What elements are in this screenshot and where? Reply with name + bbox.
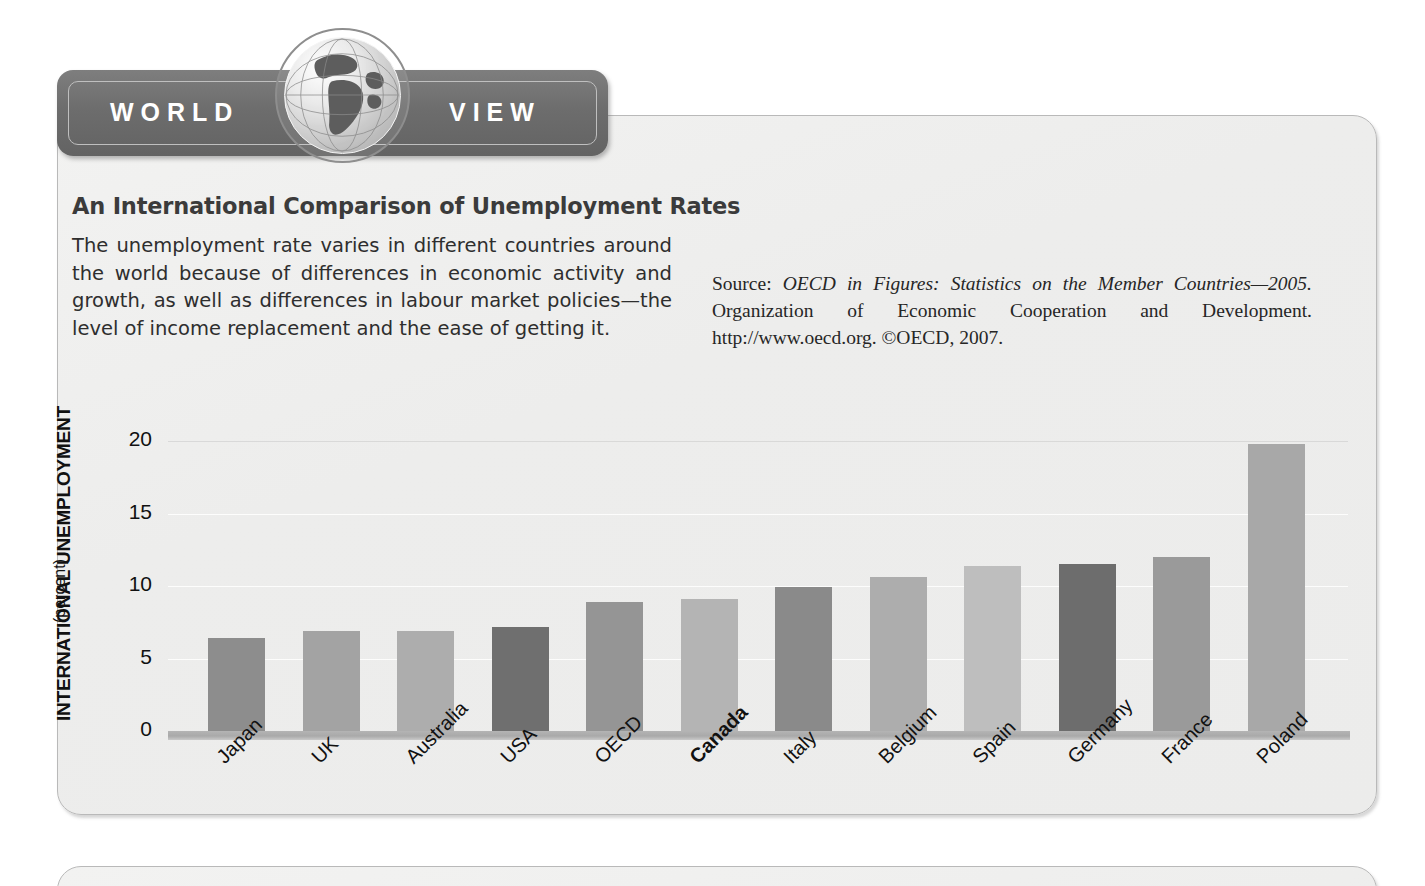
source-title: OECD in Figures: Statistics on the Membe… [783,273,1312,294]
banner-word-world: WORLD [110,98,239,127]
source-rest: Organization of Economic Cooperation and… [712,300,1312,348]
page-root: WORLD VIEW An In [0,0,1425,886]
banner-word-view: VIEW [449,98,541,127]
globe-outer-ring [275,28,410,163]
globe-icon [275,28,410,163]
world-view-panel [57,115,1377,815]
source-citation: Source: OECD in Figures: Statistics on t… [712,270,1312,351]
source-prefix: Source: [712,273,783,294]
next-section-panel [57,866,1377,886]
intro-paragraph: The unemployment rate varies in differen… [72,232,672,342]
page-title: An International Comparison of Unemploym… [72,193,740,219]
